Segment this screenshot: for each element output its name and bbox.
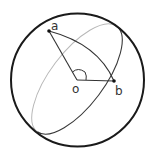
geodesic-arc-ab xyxy=(49,31,114,81)
label-b: b xyxy=(115,84,123,98)
label-a: a xyxy=(51,19,58,33)
sphere-diagram: a o b xyxy=(0,0,153,159)
great-circle-back-arc xyxy=(16,10,117,132)
radius-oa xyxy=(49,31,77,80)
label-o: o xyxy=(72,82,79,96)
point-b xyxy=(112,79,116,83)
